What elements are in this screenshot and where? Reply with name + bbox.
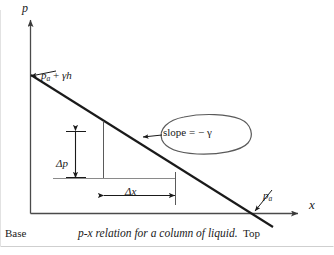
top-axis-label: Top [243, 228, 260, 239]
delta-x-construction [53, 172, 176, 205]
base-pressure-plus: + [50, 69, 62, 81]
slope-annotation: slope = − γ [163, 127, 212, 138]
delta-x-label: Δx [125, 186, 136, 197]
x-axis-label: x [309, 198, 315, 211]
pressure-line [31, 75, 273, 227]
base-axis-label: Base [5, 228, 26, 239]
top-pressure-subscript: a [269, 194, 273, 203]
y-axis-label: p [22, 2, 28, 14]
pressure-distribution-figure: p x pa + γh pa slope = − γ Δp Δx Base To… [0, 0, 334, 255]
delta-p-construction [66, 121, 104, 179]
base-pressure-label: pa + γh [41, 70, 72, 82]
top-pressure-label: pa [263, 190, 272, 202]
figure-caption: p-x relation for a column of liquid. [78, 228, 238, 240]
base-pressure-gamma-h: γh [62, 69, 72, 81]
delta-p-label: Δp [56, 158, 68, 169]
